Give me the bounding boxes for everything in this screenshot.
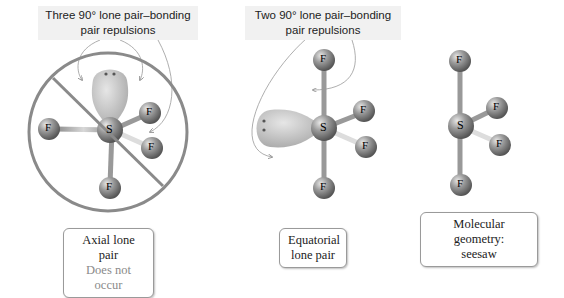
atom-label: F bbox=[496, 137, 502, 149]
atom-label: F bbox=[146, 105, 152, 117]
atom-label: F bbox=[493, 100, 499, 112]
atom-label: S bbox=[320, 120, 327, 135]
label-title: Equatorial bbox=[288, 233, 338, 248]
atom-label: F bbox=[456, 53, 462, 65]
atom-label: F bbox=[362, 139, 368, 151]
atom-label: S bbox=[457, 118, 464, 133]
caption-line: pair repulsions bbox=[251, 23, 395, 38]
atom-label: F bbox=[45, 121, 51, 133]
equatorial-repulsion-caption: Two 90° lone pair–bonding pair repulsion… bbox=[245, 6, 401, 40]
atom-label: F bbox=[148, 140, 154, 152]
label-subtitle: lone pair bbox=[288, 248, 338, 263]
atom-label: F bbox=[320, 180, 326, 192]
atom-label: F bbox=[360, 103, 366, 115]
label-subtitle: seesaw bbox=[429, 247, 529, 262]
equatorial-lone-pair-molecule bbox=[252, 38, 377, 199]
atom-label: F bbox=[457, 177, 463, 189]
caption-line: pair repulsions bbox=[44, 23, 192, 38]
atom-label: F bbox=[320, 52, 326, 64]
label-status: Does not occur bbox=[72, 263, 145, 293]
atom-label: F bbox=[106, 180, 112, 192]
axial-label-box: Axial lone pair Does not occur bbox=[63, 228, 154, 298]
caption-line: Two 90° lone pair–bonding bbox=[251, 8, 395, 23]
equatorial-label-box: Equatorial lone pair bbox=[279, 228, 347, 268]
geometry-label-box: Molecular geometry: seesaw bbox=[420, 212, 538, 267]
label-title: Axial lone pair bbox=[72, 233, 145, 263]
label-title: Molecular geometry: bbox=[429, 217, 529, 247]
axial-repulsion-caption: Three 90° lone pair–bonding pair repulsi… bbox=[38, 6, 198, 40]
caption-line: Three 90° lone pair–bonding bbox=[44, 8, 192, 23]
atom-label: S bbox=[106, 122, 113, 137]
